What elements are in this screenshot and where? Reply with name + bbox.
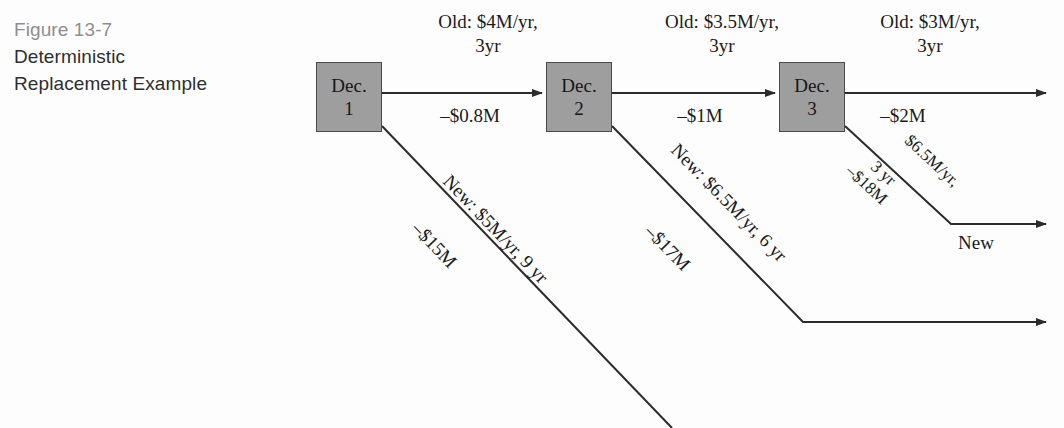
label-dec2-old-above-line-2: 3yr (709, 34, 734, 58)
label-dec3-new-terminal: New (958, 231, 994, 255)
decision-node-1[interactable]: Dec. 1 (316, 62, 382, 132)
decision-node-1-label-line-2: 1 (344, 97, 354, 120)
decision-node-3-label-line-2: 3 (807, 97, 817, 120)
label-dec3-old-above-line-1: Old: $3M/yr, (880, 10, 980, 34)
decision-node-2-label-line-1: Dec. (561, 74, 596, 97)
decision-node-3-label-line-1: Dec. (794, 74, 829, 97)
label-dec3-old-below: –$2M (880, 104, 925, 128)
figure-canvas: Figure 13-7 Deterministic Replacement Ex… (0, 0, 1064, 428)
decision-node-2-label-line-2: 2 (574, 97, 584, 120)
label-dec3-old-above-line-2: 3yr (917, 34, 942, 58)
label-dec1-old-below: –$0.8M (440, 104, 500, 128)
label-dec2-old-below: –$1M (677, 104, 722, 128)
decision-node-1-label-line-1: Dec. (331, 74, 366, 97)
edge-layer (0, 0, 1064, 428)
decision-node-3[interactable]: Dec. 3 (779, 62, 845, 132)
label-dec1-old-above-line-2: 3yr (475, 34, 500, 58)
label-dec1-old-above-line-1: Old: $4M/yr, (438, 10, 538, 34)
label-dec2-old-above-line-1: Old: $3.5M/yr, (665, 10, 779, 34)
decision-node-2[interactable]: Dec. 2 (546, 62, 612, 132)
